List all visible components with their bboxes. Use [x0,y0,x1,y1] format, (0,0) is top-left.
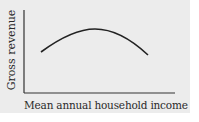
revenue-curve [41,29,148,55]
x-axis-label: Mean annual household income [24,99,180,111]
y-axis-label: Gross revenue [5,10,18,91]
